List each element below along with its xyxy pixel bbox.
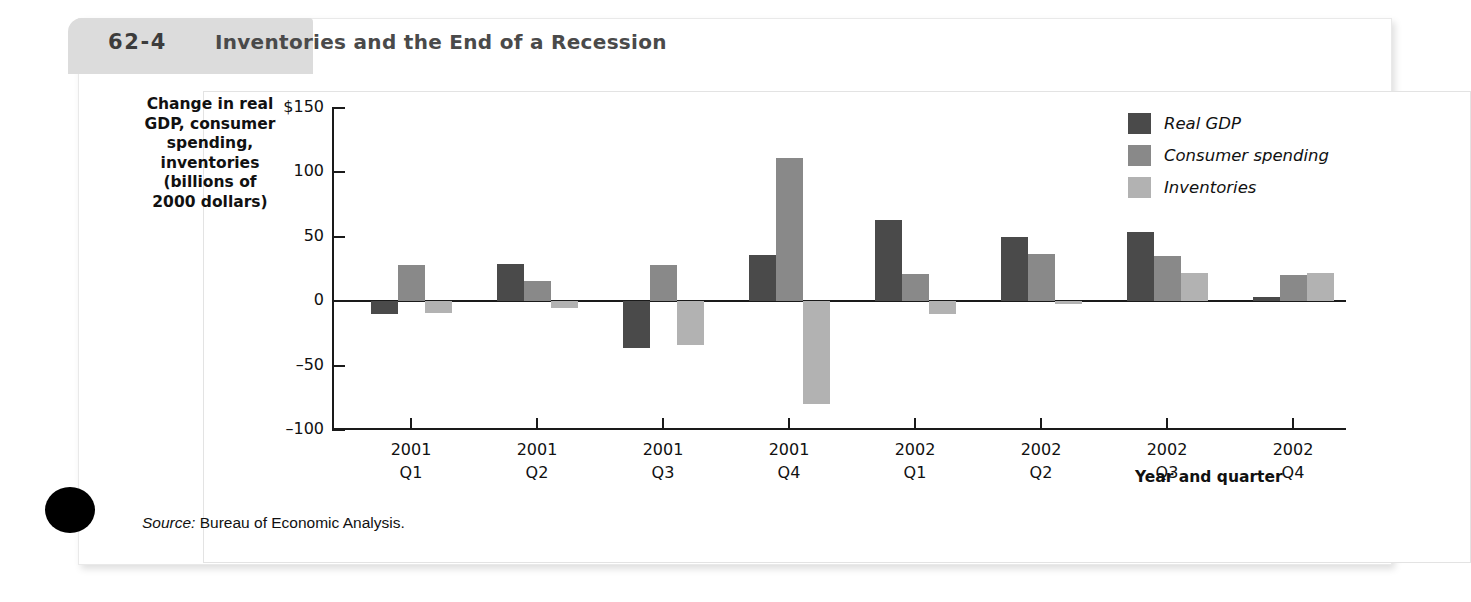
chart-bar (497, 264, 524, 301)
x-axis-tick-label-line: Q2 (981, 461, 1101, 484)
source-word: Source: (142, 514, 195, 531)
y-axis-tick (332, 236, 345, 238)
y-axis-tick-label: –100 (285, 419, 324, 438)
x-axis-tick (914, 418, 916, 430)
x-axis-tick (788, 418, 790, 430)
legend-item: Real GDP (1128, 110, 1329, 137)
legend-label: Real GDP (1164, 114, 1241, 133)
x-axis-tick (662, 418, 664, 430)
x-axis-tick-label: 2001Q1 (351, 438, 471, 484)
chart-bar (650, 265, 677, 301)
x-axis-tick-label-line: Q2 (477, 461, 597, 484)
chart-bar (677, 301, 704, 345)
x-axis-tick-label-line: 2001 (477, 438, 597, 461)
chart-bar (1253, 297, 1280, 301)
chart-bar (425, 301, 452, 313)
x-axis-tick-label: 2001Q3 (603, 438, 723, 484)
source-text: Bureau of Economic Analysis. (195, 514, 404, 531)
y-axis-title: Change in realGDP, consumerspending,inve… (120, 95, 300, 212)
source-note: Source: Bureau of Economic Analysis. (142, 514, 405, 532)
chart-bar (1055, 301, 1082, 304)
x-axis-tick-label-line: 2002 (981, 438, 1101, 461)
chart-bar (803, 301, 830, 404)
x-axis-tick-label: 2001Q2 (477, 438, 597, 484)
x-axis-tick-label-line: Q4 (729, 461, 849, 484)
legend-label: Consumer spending (1164, 146, 1329, 165)
chart-bar (1001, 237, 1028, 301)
y-axis-tick (332, 171, 345, 173)
figure-label: FIGURE (62, 0, 132, 22)
x-axis-title: Year and quarter (1135, 468, 1283, 486)
x-axis-tick-label: 2002Q2 (981, 438, 1101, 484)
x-axis-tick-label-line: 2001 (729, 438, 849, 461)
y-axis-title-line: GDP, consumer (120, 115, 300, 135)
x-axis-tick-label-line: 2002 (1107, 438, 1227, 461)
legend-item: Consumer spending (1128, 142, 1329, 169)
x-axis-line (332, 428, 1346, 430)
y-axis-tick-label: –50 (296, 355, 324, 374)
chart-bar (875, 220, 902, 301)
x-axis-tick (1166, 418, 1168, 430)
chart-bar (551, 301, 578, 307)
chart-bar (1127, 232, 1154, 302)
chart-legend: Real GDPConsumer spendingInventories (1128, 110, 1329, 206)
x-axis-tick (410, 418, 412, 430)
y-axis-tick (332, 429, 345, 431)
chart-bar (1028, 254, 1055, 302)
chart-bar (902, 274, 929, 301)
legend-item: Inventories (1128, 174, 1329, 201)
y-axis-title-line: inventories (120, 154, 300, 174)
chart-bar (524, 281, 551, 302)
x-axis-tick (536, 418, 538, 430)
chart-bar (1154, 256, 1181, 301)
y-axis-tick (332, 365, 345, 367)
legend-swatch (1128, 145, 1151, 166)
legend-label: Inventories (1164, 178, 1256, 197)
chart-bar (1307, 273, 1334, 301)
x-axis-tick-label-line: 2002 (855, 438, 975, 461)
x-axis-tick-label-line: 2002 (1233, 438, 1353, 461)
y-axis-tick-label: 0 (314, 290, 324, 309)
chart-bar (371, 301, 398, 314)
x-axis-tick-label-line: 2001 (603, 438, 723, 461)
y-axis-tick-label: 100 (293, 161, 324, 180)
y-axis-tick-label: $150 (283, 97, 324, 116)
y-axis-title-line: spending, (120, 134, 300, 154)
chart-bar (929, 301, 956, 314)
y-axis-title-line: Change in real (120, 95, 300, 115)
y-axis-tick (332, 300, 345, 302)
x-axis-tick-label-line: Q3 (603, 461, 723, 484)
figure-number: 62-4 (108, 30, 167, 54)
legend-swatch (1128, 177, 1151, 198)
bullet-dot-icon (45, 487, 95, 533)
legend-swatch (1128, 113, 1151, 134)
y-axis-tick (332, 107, 345, 109)
x-axis-tick-label: 2001Q4 (729, 438, 849, 484)
x-axis-tick (1292, 418, 1294, 430)
chart-bar (623, 301, 650, 347)
y-axis-tick-label: 50 (304, 226, 324, 245)
chart-bar (776, 158, 803, 301)
x-axis-tick-label-line: 2001 (351, 438, 471, 461)
y-axis-line (332, 108, 334, 430)
chart-bar (749, 255, 776, 301)
chart-bar (1181, 273, 1208, 301)
x-axis-tick-label-line: Q1 (351, 461, 471, 484)
chart-bar (398, 265, 425, 301)
x-axis-tick-label: 2002Q1 (855, 438, 975, 484)
x-axis-tick (1040, 418, 1042, 430)
y-axis-title-line: 2000 dollars) (120, 193, 300, 213)
chart-bar (1280, 275, 1307, 301)
x-axis-tick-label-line: Q1 (855, 461, 975, 484)
page-title: Inventories and the End of a Recession (215, 30, 667, 54)
y-axis-title-line: (billions of (120, 173, 300, 193)
